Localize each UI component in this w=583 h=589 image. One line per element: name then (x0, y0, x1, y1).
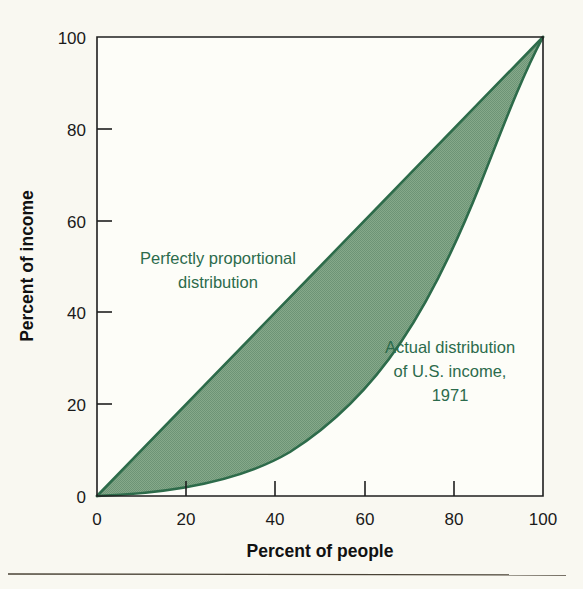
x-tick-label-20: 20 (177, 510, 196, 529)
x-axis-title: Percent of people (247, 541, 394, 561)
x-tick-label-60: 60 (356, 510, 375, 529)
y-tick-label-20: 20 (67, 396, 86, 415)
lorenz-curve-chart: 100 80 60 40 20 0 0 20 40 60 80 100 Perc… (0, 0, 583, 589)
y-tick-label-100: 100 (58, 29, 86, 48)
x-tick-label-80: 80 (445, 510, 464, 529)
y-tick-label-0: 0 (77, 488, 86, 507)
y-tick-label-40: 40 (67, 304, 86, 323)
annotation-proportional-line1: Perfectly proportional (140, 249, 296, 267)
annotation-actual-line1: Actual distribution (385, 338, 515, 356)
y-tick-label-60: 60 (67, 213, 86, 232)
annotation-proportional-line2: distribution (178, 273, 258, 291)
x-tick-label-40: 40 (266, 510, 285, 529)
y-tick-label-80: 80 (67, 121, 86, 140)
annotation-actual-line3: 1971 (432, 386, 469, 404)
x-tick-label-100: 100 (529, 510, 557, 529)
x-tick-label-0: 0 (92, 510, 101, 529)
annotation-actual-line2: of U.S. income, (394, 362, 507, 380)
lorenz-curve-figure: 100 80 60 40 20 0 0 20 40 60 80 100 Perc… (0, 0, 583, 589)
y-axis-title: Percent of income (17, 190, 37, 342)
footer-divider (8, 574, 566, 575)
